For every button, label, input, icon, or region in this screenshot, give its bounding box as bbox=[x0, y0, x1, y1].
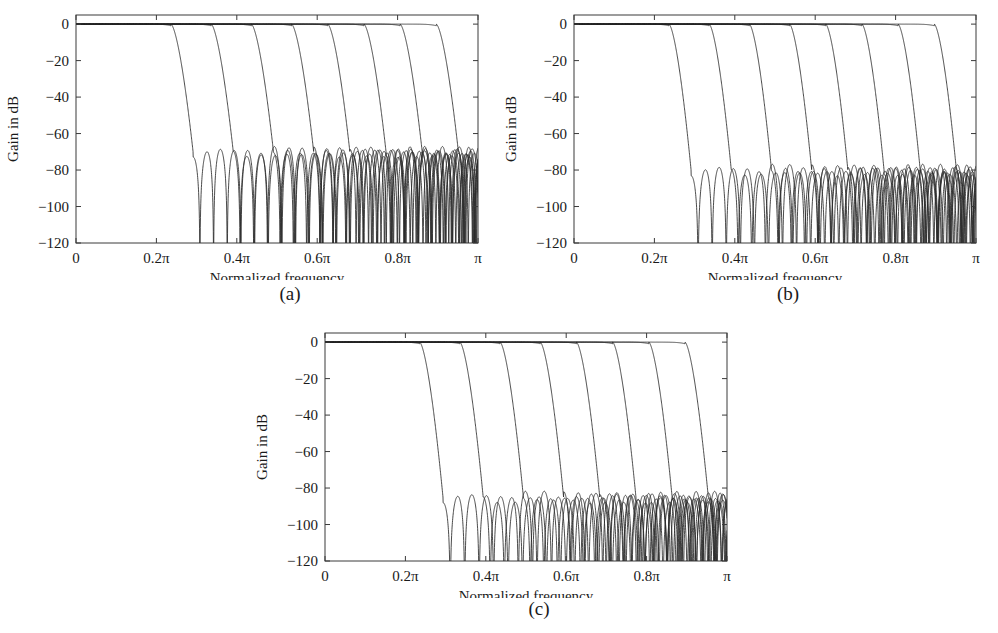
x-axis-title: Normalized frequency bbox=[210, 270, 345, 280]
x-tick-label: 0.8π bbox=[384, 250, 411, 266]
x-tick-label: π bbox=[723, 568, 731, 584]
x-axis-title: Normalized frequency bbox=[708, 270, 843, 280]
y-tick-label: −20 bbox=[544, 53, 567, 69]
y-tick-label: −80 bbox=[295, 480, 318, 496]
response-curve bbox=[325, 342, 727, 570]
x-tick-label: 0 bbox=[570, 250, 578, 266]
response-curve bbox=[325, 342, 727, 570]
figure-three-panel-filter-responses: 00.2π0.4π0.6π0.8ππ0−20−40−60−80−100−120N… bbox=[0, 0, 998, 633]
y-axis-title: Gain in dB bbox=[254, 414, 270, 480]
y-tick-label: −60 bbox=[295, 444, 318, 460]
y-tick-label: −80 bbox=[46, 162, 69, 178]
panel-b: 00.2π0.4π0.6π0.8ππ0−20−40−60−80−100−120N… bbox=[498, 0, 998, 280]
x-tick-label: 0.4π bbox=[473, 568, 500, 584]
y-tick-label: −120 bbox=[536, 235, 567, 251]
y-tick-label: −100 bbox=[536, 199, 567, 215]
panel-b-caption: (b) bbox=[758, 283, 818, 305]
y-tick-label: −20 bbox=[295, 371, 318, 387]
y-axis-title: Gain in dB bbox=[503, 96, 519, 162]
panel-c: 00.2π0.4π0.6π0.8ππ0−20−40−60−80−100−120N… bbox=[249, 318, 749, 598]
response-curve bbox=[325, 342, 727, 570]
x-tick-label: 0 bbox=[321, 568, 329, 584]
y-axis-title: Gain in dB bbox=[5, 96, 21, 162]
x-tick-label: 0.4π bbox=[224, 250, 251, 266]
y-tick-label: −80 bbox=[544, 162, 567, 178]
response-curve bbox=[325, 342, 727, 570]
response-curve bbox=[325, 342, 727, 570]
y-tick-label: 0 bbox=[62, 16, 70, 32]
y-tick-label: −120 bbox=[287, 553, 318, 569]
y-tick-label: −40 bbox=[544, 89, 567, 105]
x-tick-label: 0.6π bbox=[802, 250, 829, 266]
x-tick-label: 0.6π bbox=[304, 250, 331, 266]
y-tick-label: −100 bbox=[38, 199, 69, 215]
curves-group bbox=[325, 342, 727, 570]
response-curve bbox=[325, 342, 727, 570]
y-tick-label: −60 bbox=[544, 126, 567, 142]
y-tick-label: −40 bbox=[295, 407, 318, 423]
x-tick-label: 0.6π bbox=[553, 568, 580, 584]
panel-c-caption: (c) bbox=[509, 598, 569, 620]
x-tick-label: 0.2π bbox=[143, 250, 170, 266]
curves-group bbox=[574, 24, 976, 252]
panel-a-caption: (a) bbox=[260, 283, 320, 305]
y-tick-label: 0 bbox=[560, 16, 568, 32]
y-tick-label: 0 bbox=[311, 334, 319, 350]
x-tick-label: 0 bbox=[72, 250, 80, 266]
x-tick-label: π bbox=[972, 250, 980, 266]
response-curve bbox=[325, 342, 727, 570]
y-tick-label: −120 bbox=[38, 235, 69, 251]
y-tick-label: −40 bbox=[46, 89, 69, 105]
panel-a: 00.2π0.4π0.6π0.8ππ0−20−40−60−80−100−120N… bbox=[0, 0, 500, 280]
x-tick-label: 0.2π bbox=[641, 250, 668, 266]
y-tick-label: −60 bbox=[46, 126, 69, 142]
x-tick-label: 0.4π bbox=[722, 250, 749, 266]
response-curve bbox=[325, 342, 727, 570]
x-tick-label: π bbox=[474, 250, 482, 266]
curves-group bbox=[76, 24, 478, 252]
y-tick-label: −20 bbox=[46, 53, 69, 69]
response-curve bbox=[574, 24, 976, 252]
x-axis-title: Normalized frequency bbox=[459, 588, 594, 598]
response-curve bbox=[76, 24, 478, 252]
x-tick-label: 0.2π bbox=[392, 568, 419, 584]
x-tick-label: 0.8π bbox=[882, 250, 909, 266]
x-tick-label: 0.8π bbox=[633, 568, 660, 584]
y-tick-label: −100 bbox=[287, 517, 318, 533]
